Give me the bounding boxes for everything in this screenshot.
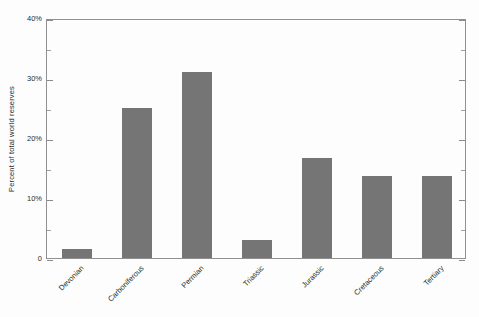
bar [422,176,452,258]
x-axis-tick-label: Carboniferous [106,263,146,303]
plot-area [46,19,466,259]
y-axis-tick-label: 10% [0,195,42,203]
y-axis-tick [47,80,53,81]
y-axis-tick-right [459,140,465,141]
y-axis-tick-label: 40% [0,15,42,23]
y-axis-tick-right [459,80,465,81]
y-axis-minor-tick-right [461,50,465,51]
y-axis-minor-tick-right [461,110,465,111]
y-axis-tick [47,260,53,261]
x-axis-tick-label: Jurassic [300,263,327,290]
y-axis-minor-tick [47,170,51,171]
bar [122,108,152,258]
x-axis-tick-label: Triassic [241,263,266,288]
y-axis-tick-label: 30% [0,75,42,83]
y-axis-tick-right [459,260,465,261]
y-axis-tick-right [459,20,465,21]
y-axis-minor-tick-right [461,230,465,231]
y-axis-tick-label: 0 [0,255,42,263]
y-axis-tick-label: 20% [0,135,42,143]
plot-inner [47,20,465,258]
x-axis-tick-label: Permian [180,263,207,290]
x-axis-tick-label: Devonian [57,263,86,292]
y-axis-minor-tick [47,110,51,111]
bar [182,72,212,258]
y-axis-tick [47,20,53,21]
y-axis-minor-tick [47,230,51,231]
bar [362,176,392,258]
y-axis-minor-tick-right [461,170,465,171]
bar-chart-figure: Percent of total world reserves 010%20%3… [0,0,479,317]
y-axis-minor-tick [47,50,51,51]
bar [302,158,332,258]
y-axis-tick [47,200,53,201]
x-axis-tick-label: Cretaceous [352,263,386,297]
y-axis-tick [47,140,53,141]
y-axis-tick-right [459,200,465,201]
x-axis-tick-label: Tertiary [422,263,446,287]
